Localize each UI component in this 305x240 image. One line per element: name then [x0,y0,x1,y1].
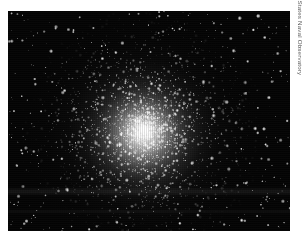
cluster-member-stars-layer-c [8,11,290,231]
scan-band-upper [8,187,290,196]
globular-cluster-photo [8,11,290,231]
copyright-credit: © United States Naval Observatory [295,0,305,103]
page-root: © United States Naval Observatory [0,0,305,240]
scan-band-lower [8,209,290,214]
